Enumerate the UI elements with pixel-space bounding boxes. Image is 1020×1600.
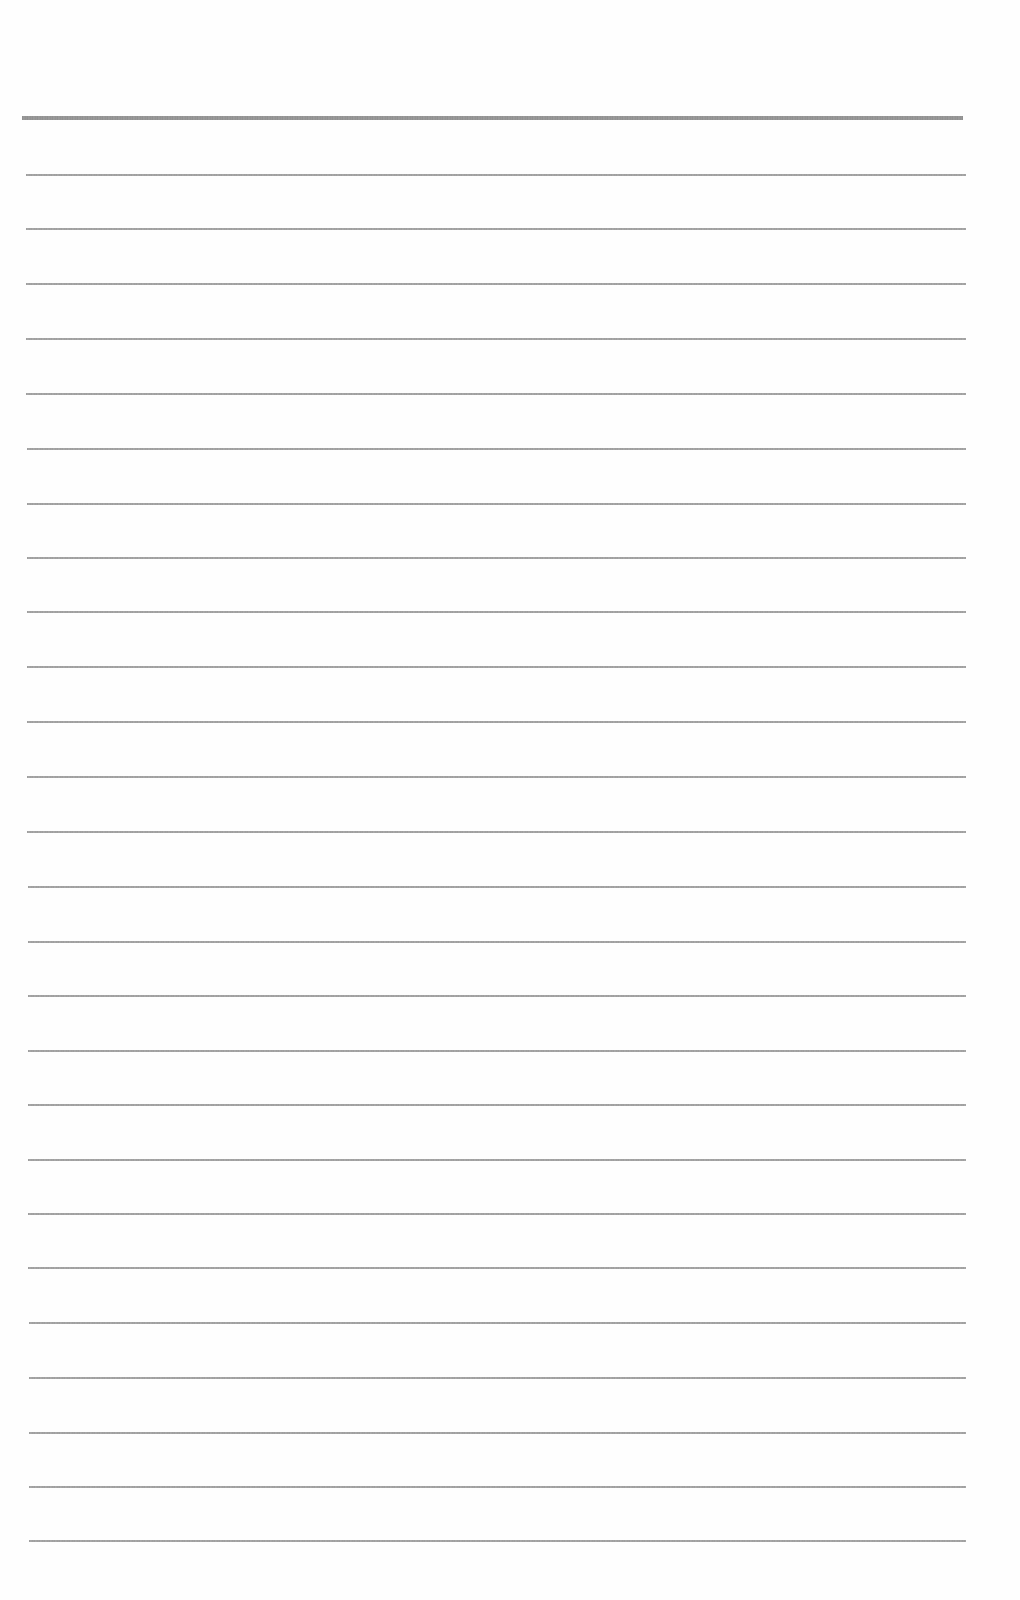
notebook-page xyxy=(0,0,1020,1600)
ruled-line xyxy=(27,557,966,559)
ruled-line xyxy=(26,174,966,176)
ruled-line xyxy=(27,503,966,505)
ruled-line xyxy=(28,1159,966,1161)
ruled-line xyxy=(27,611,966,613)
ruled-line xyxy=(26,228,966,230)
ruled-line xyxy=(29,1486,966,1488)
ruled-line xyxy=(29,1540,966,1542)
ruled-line xyxy=(28,1050,966,1052)
ruled-line xyxy=(28,1213,966,1215)
header-rule xyxy=(22,116,963,120)
ruled-line xyxy=(28,995,966,997)
ruled-line xyxy=(27,831,966,833)
ruled-line xyxy=(26,393,966,395)
ruled-line xyxy=(29,1377,966,1379)
ruled-line xyxy=(28,941,966,943)
ruled-line xyxy=(28,1104,966,1106)
ruled-line xyxy=(29,1432,966,1434)
ruled-line xyxy=(29,1322,966,1324)
ruled-line xyxy=(26,283,966,285)
ruled-line xyxy=(27,666,966,668)
ruled-line xyxy=(27,776,966,778)
ruled-line xyxy=(28,1267,966,1269)
ruled-line xyxy=(28,886,966,888)
ruled-line xyxy=(27,721,966,723)
ruled-line xyxy=(27,448,966,450)
ruled-line xyxy=(26,338,966,340)
